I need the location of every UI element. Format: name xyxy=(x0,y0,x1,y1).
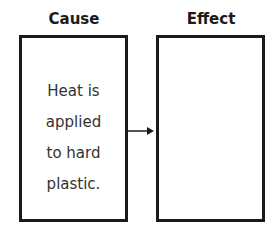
cause-heading: Cause xyxy=(19,10,129,28)
cause-text: Heat is applied to hard plastic. xyxy=(22,76,125,200)
cause-line: to hard xyxy=(22,138,125,169)
cause-line: applied xyxy=(22,107,125,138)
effect-box xyxy=(156,35,265,222)
cause-line: Heat is xyxy=(22,76,125,107)
cause-line: plastic. xyxy=(22,169,125,200)
cause-box: Heat is applied to hard plastic. xyxy=(19,35,128,222)
effect-heading: Effect xyxy=(156,10,266,28)
arrow-right-icon xyxy=(128,126,154,136)
